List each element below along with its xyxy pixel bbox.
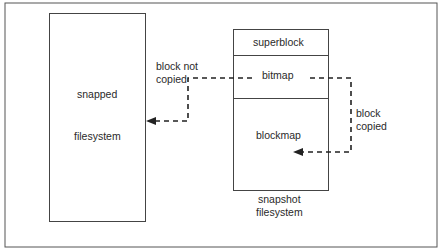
snapshot-caption-2: filesystem [256,206,303,219]
copied-label-1: block [356,107,381,120]
snapped-label-1: snapped [77,88,117,101]
snapped-filesystem-box [50,14,146,222]
snapshot-filesystem-box [234,30,329,191]
not-copied-label-1: block not [156,60,198,73]
superblock-label: superblock [253,36,304,49]
snapshot-caption-1: snapshot [258,193,301,206]
blockmap-label: blockmap [256,129,301,142]
snapped-label-2: filesystem [74,130,121,143]
not-copied-label-2: copied [156,73,187,86]
block-copied-arrow [302,78,351,152]
bitmap-label: bitmap [262,69,294,82]
arrowhead-left-icon [293,148,303,156]
copied-label-2: copied [356,120,387,133]
arrowhead-left-icon [146,117,156,125]
